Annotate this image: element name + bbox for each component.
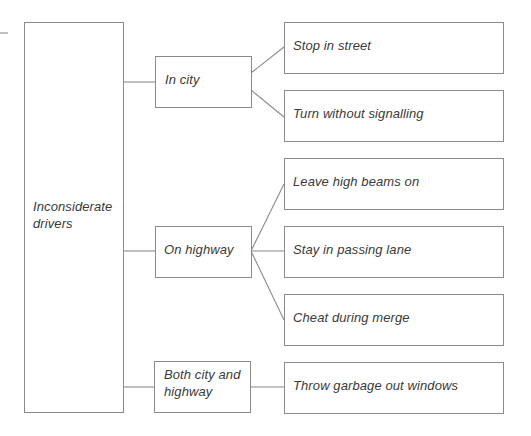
root-label-line-1: Inconsiderate xyxy=(33,198,112,215)
leaf-label: Stop in street xyxy=(293,37,371,54)
category-label-line: In city xyxy=(165,71,200,88)
category-label-on-highway: On highway xyxy=(164,241,234,258)
category-label-both: Both city and highway xyxy=(164,366,240,400)
category-label-line-1: Both city and xyxy=(164,366,240,383)
category-label-line: On highway xyxy=(164,241,234,258)
tree-diagram: Inconsiderate drivers In city On highway… xyxy=(0,0,531,436)
root-node-label: Inconsiderate drivers xyxy=(33,198,112,232)
category-label-in-city: In city xyxy=(165,71,200,88)
leaf-label: Throw garbage out windows xyxy=(293,377,458,394)
leaf-label: Turn without signalling xyxy=(293,105,424,122)
root-label-line-2: drivers xyxy=(33,215,112,232)
leaf-label: Stay in passing lane xyxy=(293,241,411,258)
category-label-line-2: highway xyxy=(164,383,240,400)
leaf-label: Leave high beams on xyxy=(293,173,419,190)
leaf-label: Cheat during merge xyxy=(293,309,410,326)
